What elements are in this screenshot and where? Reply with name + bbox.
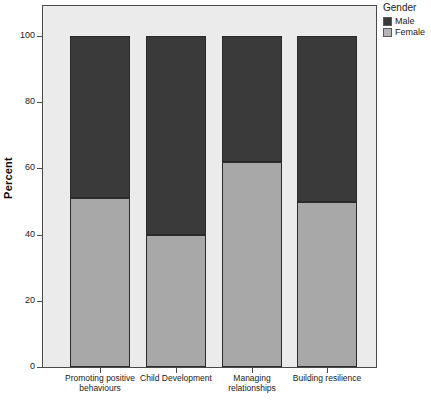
legend-item-male[interactable]: Male xyxy=(383,16,431,26)
stacked-bar-chart: 020406080100 Percent Promoting positive … xyxy=(0,0,431,407)
y-tick-40 xyxy=(37,235,42,236)
legend-swatch-female-icon xyxy=(383,28,392,37)
y-tick-label-100: 100 xyxy=(2,31,35,40)
legend-items: MaleFemale xyxy=(383,16,431,37)
y-tick-20 xyxy=(37,301,42,302)
bar-segment-female-2 xyxy=(222,162,282,367)
y-axis-title: Percent xyxy=(2,148,14,208)
bar-segment-female-1 xyxy=(146,235,206,367)
y-tick-label-80: 80 xyxy=(2,97,35,106)
legend-swatch-male-icon xyxy=(383,17,392,26)
bar-segment-female-3 xyxy=(297,202,357,368)
bar-segment-male-2 xyxy=(222,36,282,162)
bar-segment-male-1 xyxy=(146,36,206,235)
y-tick-100 xyxy=(37,36,42,37)
y-tick-label-20: 20 xyxy=(2,296,35,305)
legend: Gender MaleFemale xyxy=(383,2,431,38)
y-axis-line xyxy=(42,31,43,368)
x-category-label-3: Building resilience xyxy=(282,374,372,384)
x-axis-caption xyxy=(42,402,377,407)
bar-segment-female-0 xyxy=(70,198,130,367)
legend-title: Gender xyxy=(383,2,431,13)
legend-label-male: Male xyxy=(395,16,415,26)
y-tick-label-40: 40 xyxy=(2,230,35,239)
y-tick-80 xyxy=(37,102,42,103)
y-tick-60 xyxy=(37,168,42,169)
bar-segment-male-3 xyxy=(297,36,357,202)
legend-label-female: Female xyxy=(395,27,425,37)
legend-item-female[interactable]: Female xyxy=(383,27,431,37)
bar-segment-male-0 xyxy=(70,36,130,198)
y-tick-label-0: 0 xyxy=(2,362,35,371)
